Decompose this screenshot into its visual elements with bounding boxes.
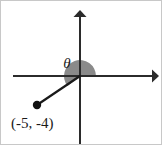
y-axis-arrow-icon [74, 10, 87, 17]
x-axis-arrow-icon [152, 70, 159, 83]
terminal-side-ray [37, 76, 80, 105]
angle-theta-label: θ [63, 55, 71, 71]
coordinate-plane-svg: θ (-5, -4) [1, 1, 162, 145]
point-coordinate-label: (-5, -4) [11, 115, 53, 132]
point-marker [33, 101, 41, 109]
angle-diagram-figure: θ (-5, -4) [0, 0, 162, 145]
